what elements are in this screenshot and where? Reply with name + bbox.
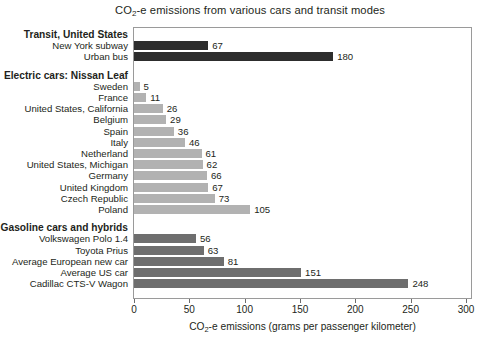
- bar: [134, 127, 174, 136]
- x-tick-mark: [355, 299, 356, 303]
- bar: [134, 205, 250, 214]
- bar-category-label: New York subway: [0, 40, 128, 51]
- bar: [134, 268, 301, 277]
- bar-row: Spain36: [0, 126, 500, 137]
- x-tick-mark: [134, 299, 135, 303]
- x-tick-label: 300: [446, 304, 486, 316]
- bar-row: France11: [0, 92, 500, 103]
- bar-value-label: 67: [212, 40, 223, 51]
- bar-category-label: Average US car: [0, 267, 128, 278]
- bar: [134, 115, 166, 124]
- bar: [134, 104, 163, 113]
- x-tick-mark: [411, 299, 412, 303]
- bar-value-label: 66: [211, 170, 222, 181]
- x-axis: 050100150200250300 CO2-e emissions (gram…: [0, 299, 500, 341]
- bar-row: United Kingdom67: [0, 182, 500, 193]
- x-tick-mark: [189, 299, 190, 303]
- bar-row: Volkswagen Polo 1.456: [0, 233, 500, 244]
- bar-row: New York subway67: [0, 40, 500, 51]
- x-tick-label: 150: [280, 304, 320, 316]
- x-axis-title-post: -e emissions (grams per passenger kilome…: [209, 321, 416, 332]
- bar: [134, 41, 208, 50]
- bar-category-label: Germany: [0, 170, 128, 181]
- x-axis-title-pre: CO: [189, 321, 204, 332]
- bar: [134, 194, 215, 203]
- bar-value-label: 63: [208, 245, 219, 256]
- bar: [134, 183, 208, 192]
- bar-row: Urban bus180: [0, 51, 500, 62]
- bar-value-label: 26: [167, 103, 178, 114]
- x-tick-label: 0: [114, 304, 154, 316]
- group-header-label: Gasoline cars and hybrids: [0, 222, 128, 233]
- bar: [134, 257, 224, 266]
- bar-category-label: United States, Michigan: [0, 159, 128, 170]
- bar-category-label: Sweden: [0, 81, 128, 92]
- x-tick-label: 200: [335, 304, 375, 316]
- chart-figure: CO2-e emissions from various cars and tr…: [0, 0, 500, 341]
- bar-row: Italy46: [0, 137, 500, 148]
- bar-category-label: Czech Republic: [0, 193, 128, 204]
- bar-category-label: Volkswagen Polo 1.4: [0, 233, 128, 244]
- bar-value-label: 151: [305, 267, 321, 278]
- bar: [134, 160, 203, 169]
- bar: [134, 82, 140, 91]
- x-tick-label: 100: [225, 304, 265, 316]
- bar-category-label: France: [0, 92, 128, 103]
- bar-category-label: Spain: [0, 126, 128, 137]
- bar-row: Germany66: [0, 170, 500, 181]
- x-tick-mark: [466, 299, 467, 303]
- group-header-label: Electric cars: Nissan Leaf: [0, 70, 128, 81]
- bar-row: Toyota Prius63: [0, 245, 500, 256]
- bar: [134, 93, 146, 102]
- bar-category-label: Belgium: [0, 114, 128, 125]
- bar-value-label: 81: [228, 256, 239, 267]
- bar-row: Cadillac CTS-V Wagon248: [0, 278, 500, 289]
- bar-value-label: 248: [412, 278, 428, 289]
- bar-row: Poland105: [0, 204, 500, 215]
- bar-category-label: Poland: [0, 204, 128, 215]
- bar-row: Average European new car81: [0, 256, 500, 267]
- bar-row: Belgium29: [0, 114, 500, 125]
- bar-value-label: 29: [170, 114, 181, 125]
- bar-value-label: 56: [200, 233, 211, 244]
- bar-category-label: United States, California: [0, 103, 128, 114]
- group-header-row: Gasoline cars and hybrids: [0, 222, 500, 233]
- bar-category-label: Netherland: [0, 148, 128, 159]
- x-axis-title: CO2-e emissions (grams per passenger kil…: [133, 321, 472, 334]
- bar-category-label: Urban bus: [0, 51, 128, 62]
- group-header-label: Transit, United States: [0, 29, 128, 40]
- bar-value-label: 5: [144, 81, 149, 92]
- bar-value-label: 180: [337, 51, 353, 62]
- bar-value-label: 46: [189, 137, 200, 148]
- bar-value-label: 61: [206, 148, 217, 159]
- bar: [134, 246, 204, 255]
- bar-value-label: 36: [178, 126, 189, 137]
- bar-row: Average US car151: [0, 267, 500, 278]
- chart-title-pre: CO: [115, 4, 132, 16]
- bar-row: Sweden5: [0, 81, 500, 92]
- bar-category-label: Average European new car: [0, 256, 128, 267]
- bar: [134, 149, 202, 158]
- bar-category-label: Italy: [0, 137, 128, 148]
- chart-title: CO2-e emissions from various cars and tr…: [0, 4, 500, 18]
- group-header-row: Transit, United States: [0, 29, 500, 40]
- bar-row: United States, Michigan62: [0, 159, 500, 170]
- x-tick-mark: [245, 299, 246, 303]
- bar-row: Czech Republic73: [0, 193, 500, 204]
- bar-value-label: 73: [219, 193, 230, 204]
- bar-value-label: 11: [150, 92, 160, 103]
- bar: [134, 279, 408, 288]
- bar-value-label: 67: [212, 182, 223, 193]
- bar: [134, 171, 207, 180]
- bar-category-label: United Kingdom: [0, 182, 128, 193]
- bar-value-label: 105: [254, 204, 270, 215]
- bar: [134, 234, 196, 243]
- bar-category-label: Cadillac CTS-V Wagon: [0, 278, 128, 289]
- bar-row: Netherland61: [0, 148, 500, 159]
- bar: [134, 138, 185, 147]
- chart-title-post: -e emissions from various cars and trans…: [137, 4, 386, 16]
- x-tick-label: 50: [169, 304, 209, 316]
- bar-category-label: Toyota Prius: [0, 245, 128, 256]
- bar-value-label: 62: [207, 159, 218, 170]
- group-header-row: Electric cars: Nissan Leaf: [0, 70, 500, 81]
